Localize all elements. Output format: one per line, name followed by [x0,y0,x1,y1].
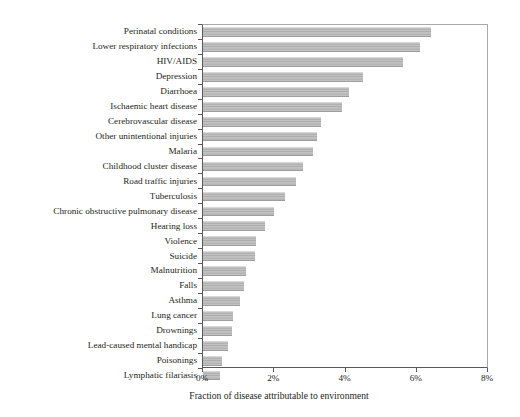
category-label: Asthma [0,295,197,305]
bar-track [203,248,488,263]
bar-track [203,293,488,308]
category-label: Malnutrition [0,265,197,275]
category-label: Hearing loss [0,221,197,231]
y-axis-tick [198,99,202,100]
y-axis-tick [198,188,202,189]
y-axis-tick [198,248,202,249]
bar-track [203,278,488,293]
y-axis-tick [198,54,202,55]
category-label: Lymphatic filariasis [0,370,197,380]
category-label: Diarrhoea [0,86,197,96]
category-label: Cerebrovascular disease [0,116,197,126]
category-label: Childhood cluster disease [0,161,197,171]
bar-row: Diarrhoea [0,84,520,99]
bar-row: Drownings [0,323,520,338]
category-label: Violence [0,236,197,246]
category-label: Suicide [0,251,197,261]
bar-row: Malnutrition [0,263,520,278]
bar-track [203,69,488,84]
y-axis-tick [198,338,202,339]
bar-track [203,188,488,203]
y-axis-tick [198,114,202,115]
bar-track [203,308,488,323]
bar-track [203,84,488,99]
x-axis-tick-label: 8% [467,373,507,383]
bar [203,356,222,366]
bar [203,311,233,321]
bar [203,326,232,336]
category-label: Perinatal conditions [0,26,197,36]
bar-row: Suicide [0,248,520,263]
bar-track [203,24,488,39]
bar [203,57,403,67]
bar [203,162,303,172]
y-axis-tick [198,263,202,264]
category-label: Lead-caused mental handicap [0,340,197,350]
bar-row: Chronic obstructive pulmonary disease [0,203,520,218]
bar-track [203,233,488,248]
bar [203,266,246,276]
y-axis-tick [198,129,202,130]
bar [203,87,349,97]
bar-row: Lung cancer [0,308,520,323]
bar [203,341,228,351]
bar-track [203,173,488,188]
bar [203,102,342,112]
bar-row: Ischaemic heart disease [0,99,520,114]
y-axis-tick [198,218,202,219]
category-label: Road traffic injuries [0,176,197,186]
x-axis-tick [487,368,488,372]
bar-row: Violence [0,233,520,248]
category-label: Chronic obstructive pulmonary disease [0,206,197,216]
bar-track [203,203,488,218]
bar-row: Other unintentional injuries [0,129,520,144]
y-axis-tick [198,173,202,174]
category-label: Other unintentional injuries [0,131,197,141]
bar [203,296,240,306]
y-axis-tick [198,39,202,40]
bar-row: Falls [0,278,520,293]
bar [203,132,317,142]
bar-row: Poisonings [0,353,520,368]
bar [203,207,274,217]
x-axis-title: Fraction of disease attributable to envi… [0,390,520,401]
bar-track [203,338,488,353]
bar [203,236,256,246]
bar [203,221,265,231]
y-axis-tick [198,278,202,279]
bar-row: HIV/AIDS [0,54,520,69]
bar-track [203,353,488,368]
y-axis-tick [198,203,202,204]
bar-track [203,323,488,338]
bar-row: Hearing loss [0,218,520,233]
bar-track [203,263,488,278]
bar-row: Lower respiratory infections [0,39,520,54]
y-axis-tick [198,69,202,70]
category-label: Malaria [0,146,197,156]
x-axis-tick-label: 0% [182,373,222,383]
bar-track [203,54,488,69]
bar-track [203,99,488,114]
bar [203,192,285,202]
bar [203,281,244,291]
bar-chart: Perinatal conditionsLower respiratory in… [0,0,520,417]
bar [203,251,255,261]
bar-row: Childhood cluster disease [0,158,520,173]
bar-row: Depression [0,69,520,84]
bar [203,72,363,82]
x-axis-tick-label: 2% [253,373,293,383]
category-label: Depression [0,71,197,81]
y-axis-tick [198,293,202,294]
bar-row: Lead-caused mental handicap [0,338,520,353]
bar-row: Road traffic injuries [0,173,520,188]
x-axis-tick [416,368,417,372]
category-label: Lower respiratory infections [0,41,197,51]
bar-row: Cerebrovascular disease [0,114,520,129]
bar [203,42,420,52]
y-axis-tick [198,323,202,324]
y-axis-tick [198,84,202,85]
bar-track [203,39,488,54]
x-axis-tick [202,368,203,372]
bar [203,177,296,187]
category-label: Poisonings [0,355,197,365]
